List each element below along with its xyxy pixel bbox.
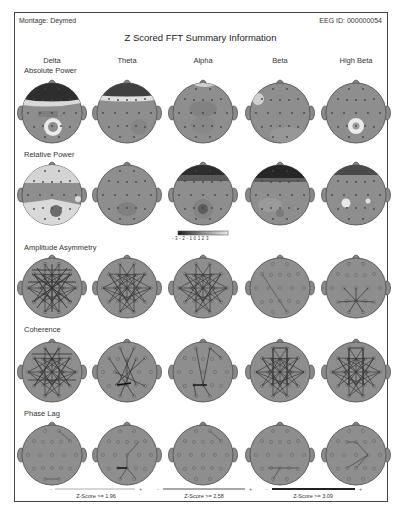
topomap-grid: - + - + - + bbox=[0, 0, 401, 516]
phase-lag-theta bbox=[93, 422, 162, 485]
asymmetry-high-beta bbox=[322, 255, 391, 318]
phase-lag-high-beta bbox=[322, 422, 391, 485]
svg-text:-: - bbox=[157, 486, 159, 492]
svg-text:-: - bbox=[266, 486, 268, 492]
topomap-absolute-delta bbox=[18, 80, 87, 143]
coherence-alpha bbox=[169, 339, 238, 402]
colorbar-ticks: -3-2-10123 bbox=[172, 236, 210, 241]
asymmetry-beta bbox=[246, 255, 315, 318]
colorbar bbox=[178, 231, 228, 235]
coherence-delta bbox=[18, 339, 87, 402]
svg-text:+: + bbox=[249, 486, 252, 492]
legend-label-2-58: Z-Score >= 2.58 bbox=[159, 493, 249, 499]
phase-lag-delta bbox=[18, 422, 87, 485]
topomap-absolute-beta bbox=[246, 80, 315, 143]
topomap-relative-beta bbox=[246, 162, 315, 225]
legend-line-2-58: - + bbox=[157, 486, 252, 492]
coherence-beta bbox=[246, 339, 315, 402]
topomap-absolute-alpha bbox=[169, 80, 238, 143]
topomap-relative-delta bbox=[18, 162, 87, 225]
legend-line-1-96: - + bbox=[50, 486, 142, 492]
topomap-relative-alpha bbox=[169, 162, 238, 225]
legend-line-3-09: - + bbox=[266, 486, 362, 492]
coherence-theta bbox=[93, 339, 162, 402]
asymmetry-theta bbox=[93, 255, 162, 318]
phase-lag-alpha bbox=[169, 422, 238, 485]
topomap-absolute-theta bbox=[93, 80, 162, 143]
phase-lag-beta bbox=[246, 422, 315, 485]
asymmetry-delta bbox=[18, 255, 87, 318]
coherence-high-beta bbox=[322, 339, 391, 402]
topomap-relative-high-beta bbox=[322, 162, 391, 225]
topomap-absolute-high-beta bbox=[322, 80, 391, 143]
asymmetry-alpha bbox=[169, 255, 238, 318]
svg-text:+: + bbox=[359, 486, 362, 492]
legend-label-1-96: Z-Score >= 1.96 bbox=[51, 493, 141, 499]
topomap-relative-theta bbox=[93, 162, 162, 225]
svg-text:-: - bbox=[50, 486, 52, 492]
svg-text:+: + bbox=[139, 486, 142, 492]
legend-label-3-09: Z-Score >= 3.09 bbox=[268, 493, 358, 499]
